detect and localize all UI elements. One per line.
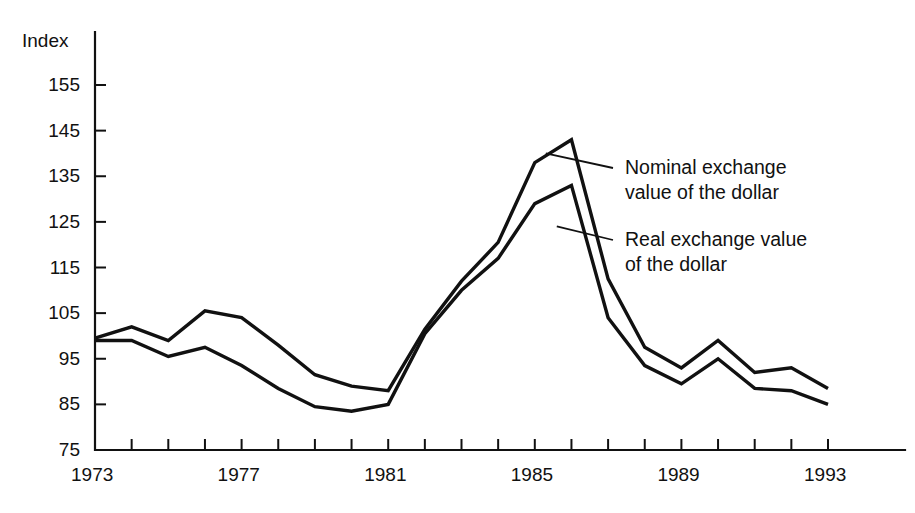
y-tick-label-115: 115 [28, 258, 80, 277]
x-tick-label-1989: 1989 [657, 465, 699, 484]
y-tick-label-85: 85 [28, 394, 80, 413]
y-axis-title: Index [22, 30, 68, 52]
y-tick-label-145: 145 [28, 121, 80, 140]
series-line-real [95, 185, 828, 411]
x-tick-label-1993: 1993 [804, 465, 846, 484]
x-tick-label-1985: 1985 [511, 465, 553, 484]
nominal-annotation: Nominal exchange value of the dollar [625, 155, 787, 205]
x-tick-label-1973: 1973 [71, 465, 113, 484]
y-tick-label-95: 95 [28, 349, 80, 368]
y-tick-label-155: 155 [28, 75, 80, 94]
x-tick-label-1981: 1981 [364, 465, 406, 484]
real-annotation: Real exchange value of the dollar [625, 227, 807, 277]
y-tick-label-135: 135 [28, 166, 80, 185]
x-tick-label-1977: 1977 [218, 465, 260, 484]
y-tick-label-125: 125 [28, 212, 80, 231]
y-tick-label-105: 105 [28, 303, 80, 322]
y-tick-label-75: 75 [28, 440, 80, 459]
exchange-rate-line-chart: Index 155145135125115105958575 197319771… [0, 0, 915, 513]
